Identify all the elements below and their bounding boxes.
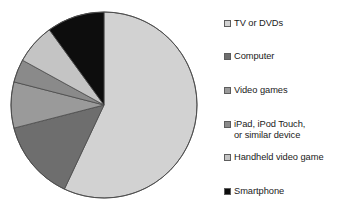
- legend-label-smartphone: Smartphone: [234, 186, 284, 197]
- legend-swatch-handheld-video-game: [224, 154, 231, 161]
- legend-item-tv-or-dvds[interactable]: TV or DVDs: [224, 18, 283, 29]
- pie-plot-area: [0, 0, 215, 215]
- legend-item-handheld-video-game[interactable]: Handheld video game: [224, 152, 324, 163]
- pie-slice-group: [11, 12, 197, 198]
- legend-item-video-games[interactable]: Video games: [224, 85, 288, 96]
- legend-label-handheld-video-game: Handheld video game: [234, 152, 324, 163]
- legend-label-tv-or-dvds: TV or DVDs: [234, 18, 283, 29]
- legend-swatch-tv-or-dvds: [224, 20, 231, 27]
- legend-swatch-computer: [224, 53, 231, 60]
- legend-swatch-smartphone: [224, 188, 231, 195]
- legend-item-computer[interactable]: Computer: [224, 51, 274, 62]
- pie-svg: [0, 0, 215, 215]
- legend-label-ipad: iPad, iPod Touch, or similar device: [234, 119, 305, 141]
- chart-legend: TV or DVDs Computer Video games iPad, iP…: [224, 0, 350, 215]
- legend-item-ipad[interactable]: iPad, iPod Touch, or similar device: [224, 119, 305, 141]
- pie-chart-figure: TV or DVDs Computer Video games iPad, iP…: [0, 0, 350, 215]
- legend-label-computer: Computer: [234, 51, 274, 62]
- legend-label-video-games: Video games: [234, 85, 288, 96]
- legend-swatch-video-games: [224, 87, 231, 94]
- legend-item-smartphone[interactable]: Smartphone: [224, 186, 284, 197]
- legend-swatch-ipad: [224, 121, 231, 128]
